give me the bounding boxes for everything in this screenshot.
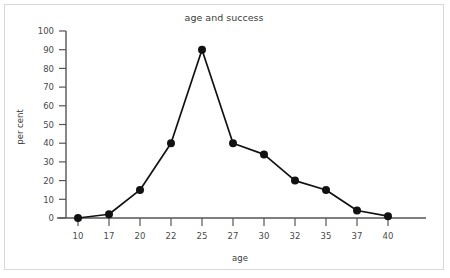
y-tick-label: 20: [43, 176, 54, 186]
data-point: [229, 139, 237, 147]
y-tick-label: 80: [43, 64, 54, 74]
y-tick-label: 100: [38, 26, 54, 36]
y-axis-tick-labels: 100 90 80 70 60 50 40 30 20 10 0: [38, 26, 54, 223]
chart-figure: age and success per cent age 100 90: [4, 4, 444, 270]
chart-title: age and success: [185, 12, 264, 23]
x-axis-tick-labels: 10 17 20 22 25 27 30 32 35 37 40: [73, 231, 394, 241]
x-tick-label: 30: [259, 231, 270, 241]
data-point: [384, 212, 392, 220]
x-tick-label: 27: [228, 231, 239, 241]
x-tick-label: 10: [73, 231, 84, 241]
data-point: [105, 210, 113, 218]
y-tick-label: 70: [43, 82, 54, 92]
x-tick-label: 35: [321, 231, 332, 241]
y-tick-label: 60: [43, 101, 54, 111]
y-tick-label: 30: [43, 157, 54, 167]
y-tick-label: 10: [43, 195, 54, 205]
y-tick-label: 50: [43, 120, 54, 130]
x-axis-title: age: [232, 253, 248, 263]
x-tick-label: 22: [166, 231, 177, 241]
line-chart: age and success per cent age 100 90: [5, 5, 443, 269]
x-tick-label: 40: [383, 231, 394, 241]
data-point: [74, 214, 82, 222]
x-tick-label: 32: [290, 231, 301, 241]
data-point: [136, 186, 144, 194]
y-tick-label: 0: [49, 213, 54, 223]
y-tick-label: 90: [43, 45, 54, 55]
data-point: [353, 207, 361, 215]
x-tick-label: 17: [104, 231, 115, 241]
x-axis-ticks: [78, 218, 388, 226]
x-tick-label: 37: [352, 231, 363, 241]
data-point: [260, 150, 268, 158]
data-series-line: [78, 50, 388, 218]
y-axis-ticks: [59, 31, 66, 218]
data-series-markers: [74, 46, 392, 222]
x-tick-label: 20: [135, 231, 146, 241]
y-axis-title: per cent: [15, 109, 25, 145]
data-point: [167, 139, 175, 147]
data-point: [291, 177, 299, 185]
data-point: [322, 186, 330, 194]
x-tick-label: 25: [197, 231, 208, 241]
data-point: [198, 46, 206, 54]
y-tick-label: 40: [43, 138, 54, 148]
